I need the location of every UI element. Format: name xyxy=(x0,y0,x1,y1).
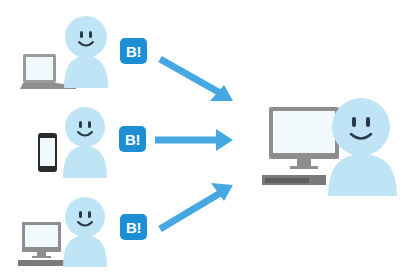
badge-label: B! xyxy=(125,131,140,148)
diagram-canvas xyxy=(0,0,407,280)
bookmark-badge-icon-2: B! xyxy=(119,126,146,152)
badge-label: B! xyxy=(126,43,141,60)
person-laptop-user xyxy=(64,16,108,88)
person-desktop-user xyxy=(63,197,107,267)
person-smartphone-user xyxy=(63,107,107,178)
arrow-smartphone-to-receiver xyxy=(155,129,233,151)
arrow-desktop-to-receiver xyxy=(160,183,233,229)
desktop-computer-icon-large xyxy=(262,107,339,185)
desktop-computer-icon-small xyxy=(18,222,66,266)
badge-label: B! xyxy=(126,219,141,236)
bookmark-badge-icon-3: B! xyxy=(120,214,147,240)
smartphone-icon xyxy=(38,133,57,172)
arrow-laptop-to-receiver xyxy=(160,59,233,101)
bookmark-badge-icon-1: B! xyxy=(120,38,147,64)
